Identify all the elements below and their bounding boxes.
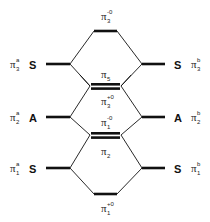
label-pi1-plus0: π 1 +0	[101, 201, 115, 216]
svg-text:5: 5	[107, 76, 111, 82]
svg-text:a: a	[16, 110, 20, 116]
svg-text:2: 2	[107, 153, 111, 159]
label-left-pi2a: π 2 a A	[10, 110, 37, 125]
orbital-correlation-diagram: π 3 -0 π 5 π 3 +0 π 1 -0 π 2 π 1 +0 π 3 …	[0, 0, 210, 222]
svg-text:b: b	[197, 110, 201, 116]
svg-text:2: 2	[197, 119, 201, 125]
label-left-pi3a: π 3 a S	[10, 57, 36, 72]
svg-text:3: 3	[107, 18, 111, 24]
svg-text:+0: +0	[107, 201, 115, 207]
symmetry-label: S	[29, 163, 36, 175]
symmetry-label: S	[174, 59, 181, 71]
label-right-pi1b: S π 1 b	[174, 161, 201, 176]
label-pi2: π 2	[101, 145, 111, 159]
svg-text:a: a	[16, 161, 20, 167]
svg-text:3: 3	[16, 66, 20, 72]
symmetry-label: A	[174, 112, 182, 124]
svg-text:3: 3	[197, 66, 201, 72]
svg-text:-0: -0	[107, 9, 113, 15]
label-pi1-minus0: π 1 -0	[101, 115, 113, 130]
label-right-pi2b: A π 2 b	[174, 110, 201, 125]
label-pi5: π 5	[101, 68, 111, 82]
svg-text:2: 2	[16, 119, 20, 125]
symmetry-label: S	[174, 163, 181, 175]
label-left-pi1a: π 1 a S	[10, 161, 36, 176]
svg-text:3: 3	[107, 103, 111, 109]
svg-text:-0: -0	[107, 115, 113, 121]
svg-text:1: 1	[107, 124, 111, 130]
symmetry-label: A	[29, 112, 37, 124]
svg-text:b: b	[197, 161, 201, 167]
label-right-pi3b: S π 3 b	[174, 57, 201, 72]
label-pi3-plus0: π 3 +0	[101, 94, 115, 109]
svg-text:1: 1	[16, 170, 20, 176]
correlation-lines	[70, 31, 142, 194]
energy-levels	[46, 31, 165, 194]
label-pi3-minus0: π 3 -0	[101, 9, 113, 24]
svg-text:+0: +0	[107, 94, 115, 100]
svg-text:a: a	[16, 57, 20, 63]
svg-text:1: 1	[197, 170, 201, 176]
symmetry-label: S	[29, 59, 36, 71]
svg-text:b: b	[197, 57, 201, 63]
svg-text:1: 1	[107, 210, 111, 216]
